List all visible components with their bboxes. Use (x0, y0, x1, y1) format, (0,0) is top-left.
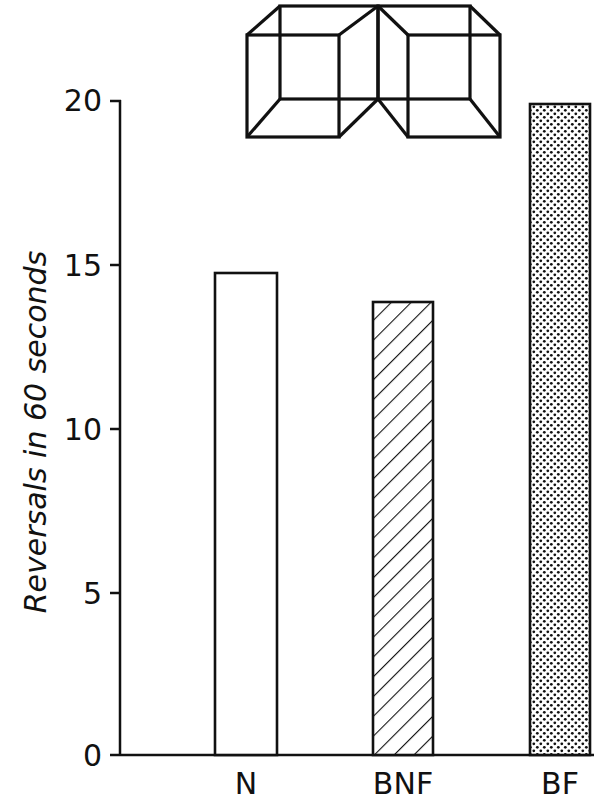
category-label-bf: BF (541, 766, 579, 801)
y-tick-15: 15 (64, 248, 102, 283)
y-tick-0: 0 (83, 738, 102, 773)
necker-cube-figure (247, 6, 500, 137)
category-label-n: N (235, 766, 257, 801)
y-tick-labels: 20 15 10 5 0 (64, 83, 102, 773)
bar-chart: 20 15 10 5 0 Reversals in 60 seconds N B… (0, 0, 594, 803)
y-axis (110, 100, 594, 756)
y-tick-20: 20 (64, 83, 102, 118)
y-tick-5: 5 (83, 576, 102, 611)
bar-bnf (373, 302, 433, 755)
category-label-bnf: BNF (373, 766, 433, 801)
bar-n (215, 273, 277, 755)
bars (215, 104, 590, 755)
x-category-labels: N BNF BF (235, 766, 579, 801)
y-tick-10: 10 (64, 412, 102, 447)
y-axis-label: Reversals in 60 seconds (18, 251, 53, 614)
bar-bf (530, 104, 590, 755)
